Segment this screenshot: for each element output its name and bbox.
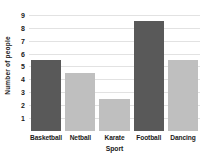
y-axis-tick-label: 4	[21, 76, 25, 83]
x-axis-title: Sport	[29, 145, 200, 152]
bar-slot	[132, 11, 166, 131]
y-axis-title-label: Number of people	[4, 36, 11, 94]
bar-series	[29, 11, 200, 131]
bar	[65, 73, 95, 131]
bar-chart: Number of people 123456789 BasketballNet…	[0, 0, 203, 157]
y-axis-tick-label: 2	[21, 102, 25, 109]
y-axis-tick-labels: 123456789	[14, 11, 27, 131]
bar-slot	[29, 11, 63, 131]
y-axis-tick-label: 6	[21, 50, 25, 57]
x-axis-tick-label: Karate	[97, 132, 131, 144]
bar-slot	[63, 11, 97, 131]
y-axis-tick-label: 1	[21, 115, 25, 122]
y-axis-tick-label: 3	[21, 89, 25, 96]
bar	[31, 60, 61, 131]
x-axis-tick-label: Dancing	[166, 132, 200, 144]
x-axis-tick-label: Netball	[63, 132, 97, 144]
bar	[99, 99, 129, 131]
y-axis-tick-label: 8	[21, 24, 25, 31]
x-axis-tick-label: Basketball	[29, 132, 63, 144]
plot-area	[29, 11, 200, 131]
bar-slot	[166, 11, 200, 131]
y-axis-title: Number of people	[0, 0, 14, 131]
bar	[168, 60, 198, 131]
x-axis-tick-label: Football	[132, 132, 166, 144]
y-axis-tick-label: 5	[21, 63, 25, 70]
y-axis-tick-label: 9	[21, 11, 25, 18]
bar-slot	[97, 11, 131, 131]
bar	[134, 21, 164, 131]
y-axis-tick-label: 7	[21, 37, 25, 44]
x-axis-tick-labels: BasketballNetballKarateFootballDancing	[29, 132, 200, 144]
